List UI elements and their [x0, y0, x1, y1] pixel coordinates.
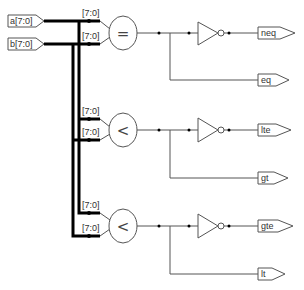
output-port-lt[interactable]: lt	[258, 268, 285, 280]
inverter-3-bubble	[218, 223, 224, 229]
comparator-less-2[interactable]: <	[109, 209, 137, 243]
output-port-gte[interactable]: gte	[258, 220, 293, 232]
comparator-equal-op: =	[117, 25, 130, 43]
inverter-2-bubble	[218, 127, 224, 133]
output-net-1	[137, 22, 258, 80]
output-port-lt-label: lt	[261, 269, 266, 279]
output-port-gt[interactable]: gt	[258, 172, 288, 184]
output-port-neq[interactable]: neq	[258, 27, 295, 39]
inverter-3	[198, 214, 218, 238]
output-port-gt-label: gt	[261, 173, 269, 183]
comparator-equal[interactable]: =	[109, 16, 137, 50]
inverter-1	[198, 22, 218, 45]
output-port-lte-label: lte	[261, 125, 271, 135]
comparator-less-1[interactable]: <	[109, 113, 137, 147]
output-net-3	[137, 214, 258, 274]
slice-label-lt2-b: [7:0]	[82, 223, 100, 233]
slice-label-eq-a: [7:0]	[82, 8, 100, 18]
input-port-a-label: a[7:0]	[10, 16, 33, 26]
slice-label-lt1-a: [7:0]	[82, 106, 100, 116]
output-port-eq[interactable]: eq	[258, 74, 289, 86]
input-port-b-label: b[7:0]	[10, 39, 33, 49]
schematic-canvas: a[7:0] b[7:0] [7:0] [7:0] [7:0] [7:0] [7…	[0, 0, 304, 290]
output-port-gte-label: gte	[261, 221, 274, 231]
comparator-less-2-op: <	[117, 218, 130, 236]
input-port-a[interactable]: a[7:0]	[8, 15, 44, 27]
slice-label-lt2-a: [7:0]	[82, 200, 100, 210]
inverter-1-bubble	[218, 30, 224, 36]
comparator-less-1-op: <	[117, 122, 130, 140]
input-port-b[interactable]: b[7:0]	[8, 38, 44, 50]
slice-label-eq-b: [7:0]	[82, 31, 100, 41]
output-port-eq-label: eq	[261, 75, 271, 85]
output-port-neq-label: neq	[261, 28, 276, 38]
output-port-lte[interactable]: lte	[258, 124, 291, 136]
output-net-2	[137, 118, 258, 178]
slice-label-lt1-b: [7:0]	[82, 127, 100, 137]
inverter-2	[198, 118, 218, 142]
